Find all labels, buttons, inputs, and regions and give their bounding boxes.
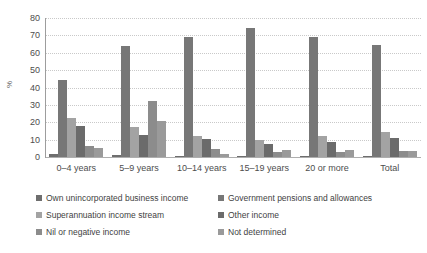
bar: [94, 148, 103, 157]
bar: [67, 118, 76, 157]
bar: [390, 138, 399, 157]
bar: [157, 121, 166, 157]
legend-item[interactable]: Own unincorporated business income: [36, 193, 218, 203]
y-axis-tick-label: 10: [6, 135, 40, 144]
legend-item[interactable]: Government pensions and allowances: [218, 193, 421, 203]
legend-label: Other income: [228, 210, 279, 220]
legend-label: Superannuation income stream: [46, 210, 164, 220]
legend-item[interactable]: Not determined: [218, 227, 421, 237]
bar-group: [233, 18, 296, 157]
bar: [184, 37, 193, 157]
y-axis-tick-label: 60: [6, 48, 40, 57]
legend-swatch-icon: [218, 195, 224, 201]
bar: [363, 156, 372, 157]
legend-label: Own unincorporated business income: [46, 193, 188, 203]
bar: [246, 28, 255, 157]
bar-group: [296, 18, 359, 157]
x-axis-tick-label: 10–14 years: [170, 163, 233, 173]
bar-group: [358, 18, 421, 157]
x-axis-tick-label: 0–4 years: [45, 163, 108, 173]
bar: [211, 149, 220, 157]
bar: [300, 156, 309, 157]
bar: [318, 136, 327, 157]
bar: [49, 154, 58, 157]
bar: [202, 139, 211, 157]
bar: [193, 136, 202, 157]
legend-label: Government pensions and allowances: [228, 193, 372, 203]
legend-label: Not determined: [228, 227, 286, 237]
bar: [264, 144, 273, 157]
legend-item[interactable]: Other income: [218, 210, 421, 220]
bar: [336, 152, 345, 157]
bar: [148, 101, 157, 157]
bar-chart: % 01020304050607080 0–4 years5–9 years10…: [0, 0, 427, 253]
x-axis-tick-label: 15–19 years: [233, 163, 296, 173]
bar: [282, 150, 291, 157]
bar: [139, 135, 148, 157]
bar: [130, 127, 139, 157]
x-axis-tick-label: 5–9 years: [108, 163, 171, 173]
legend-swatch-icon: [36, 229, 42, 235]
legend-swatch-icon: [36, 212, 42, 218]
legend-item[interactable]: Nil or negative income: [36, 227, 218, 237]
x-axis-tick-label: 20 or more: [296, 163, 359, 173]
bar: [408, 151, 417, 157]
legend-label: Nil or negative income: [46, 227, 130, 237]
y-axis-tick-label: 20: [6, 118, 40, 127]
y-axis-tick-label: 70: [6, 31, 40, 40]
x-axis-tick-label: Total: [358, 163, 421, 173]
bar: [237, 156, 246, 157]
bar: [327, 142, 336, 157]
bar: [345, 150, 354, 157]
gridline: [45, 157, 421, 158]
bar: [273, 152, 282, 157]
bar: [309, 37, 318, 157]
bar-group: [45, 18, 108, 157]
legend-swatch-icon: [218, 212, 224, 218]
y-axis-tick-label: 30: [6, 100, 40, 109]
bar: [381, 132, 390, 157]
bar: [255, 140, 264, 157]
chart-legend: Own unincorporated business incomeGovern…: [36, 189, 421, 240]
bar: [372, 45, 381, 157]
x-axis-tick-labels: 0–4 years5–9 years10–14 years15–19 years…: [45, 163, 421, 173]
legend-item[interactable]: Superannuation income stream: [36, 210, 218, 220]
bar-groups: [45, 18, 421, 157]
bar: [121, 46, 130, 157]
bar: [220, 154, 229, 157]
bar: [112, 155, 121, 157]
bar-group: [170, 18, 233, 157]
y-axis-tick-labels: 01020304050607080: [0, 18, 40, 157]
bar: [58, 80, 67, 157]
bar: [76, 126, 85, 157]
y-axis-tick-label: 0: [6, 153, 40, 162]
legend-swatch-icon: [36, 195, 42, 201]
bar: [85, 146, 94, 157]
y-axis-tick-label: 40: [6, 83, 40, 92]
bar: [399, 151, 408, 157]
y-axis-tick-label: 50: [6, 66, 40, 75]
y-axis-tick-label: 80: [6, 14, 40, 23]
legend-swatch-icon: [218, 229, 224, 235]
bar: [175, 156, 184, 157]
bar-group: [108, 18, 171, 157]
